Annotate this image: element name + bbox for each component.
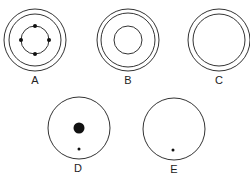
figure-a-label: A (31, 74, 39, 86)
figure-a-middle-ring (9, 14, 61, 66)
figure-e: E (143, 98, 205, 173)
figure-c-outer-ring (188, 9, 250, 71)
figure-a-inner-ring (21, 26, 49, 54)
figure-b-inner-ring (114, 26, 142, 54)
figure-d-large-dot (74, 123, 85, 134)
figure-d-label: D (74, 162, 82, 173)
figure-d-small-dot (78, 148, 81, 151)
figure-a: A (4, 9, 66, 86)
figure-a-dot-right (47, 38, 51, 42)
figure-d: D (48, 97, 110, 173)
figure-a-dot-top (33, 24, 37, 28)
concentric-circles-diagram: A B C D E (0, 0, 250, 173)
figure-e-label: E (170, 163, 177, 173)
figure-e-small-dot (172, 149, 175, 152)
figure-b-outer-ring (97, 9, 159, 71)
figure-b-middle-ring (101, 13, 155, 67)
figure-b-label: B (124, 74, 131, 86)
figure-a-dot-bottom (33, 52, 37, 56)
figure-c-label: C (215, 74, 223, 86)
figure-a-dot-left (19, 38, 23, 42)
figure-a-outer-ring (4, 9, 66, 71)
figure-c: C (188, 9, 250, 86)
figure-c-inner-ring (193, 14, 245, 66)
figure-b: B (97, 9, 159, 86)
